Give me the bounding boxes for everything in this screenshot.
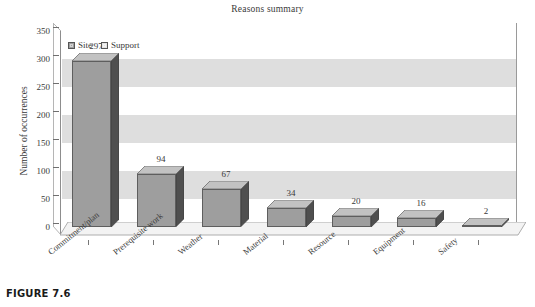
x-axis-tick-mark bbox=[478, 240, 479, 245]
legend-entry[interactable]: Site bbox=[68, 40, 92, 50]
y-axis-tick-label: 150 bbox=[10, 138, 50, 148]
x-axis-tick-mark bbox=[218, 240, 219, 245]
x-axis-tick-mark bbox=[348, 240, 349, 245]
y-axis-tick-label: 300 bbox=[10, 54, 50, 64]
bar-value-label: 20 bbox=[326, 196, 386, 206]
y-axis-tick-mark bbox=[53, 55, 59, 56]
background-band bbox=[62, 59, 517, 87]
legend-label: Site bbox=[78, 40, 92, 50]
figure-container: Reasons summary 050100150200250300350 Nu… bbox=[0, 0, 535, 307]
y-axis-tick-label: 50 bbox=[10, 194, 50, 204]
background-band bbox=[62, 115, 517, 143]
bar-side-face bbox=[176, 166, 184, 227]
y-axis-tick-mark bbox=[53, 167, 59, 168]
chart-canvas: 050100150200250300350 Number of occurren… bbox=[0, 18, 535, 278]
y-axis-tick-mark bbox=[53, 195, 59, 196]
bar-column[interactable] bbox=[72, 61, 111, 227]
plot-right-border bbox=[516, 23, 517, 227]
bar-front-face bbox=[202, 189, 241, 227]
bar-front-face bbox=[397, 218, 436, 227]
y-axis-tick-mark bbox=[53, 223, 59, 224]
bar-column[interactable] bbox=[202, 189, 241, 227]
bar-value-label: 34 bbox=[261, 188, 321, 198]
y-axis-tick-mark bbox=[53, 111, 59, 112]
x-axis-tick-mark bbox=[88, 240, 89, 245]
bar-front-face bbox=[72, 61, 111, 227]
y-axis-title: Number of occurrences bbox=[19, 41, 29, 221]
x-axis-category-label: Safety bbox=[436, 235, 459, 257]
bar-column[interactable] bbox=[332, 216, 371, 227]
x-axis-tick-mark bbox=[153, 240, 154, 245]
y-axis-tick-label: 350 bbox=[10, 26, 50, 36]
chart-title: Reasons summary bbox=[0, 4, 535, 14]
bar-front-face bbox=[332, 216, 371, 227]
axis-left-back-edge bbox=[53, 23, 54, 227]
bar-value-label: 2 bbox=[456, 206, 516, 216]
bar-front-face bbox=[267, 208, 306, 227]
y-axis-tick-mark bbox=[53, 27, 59, 28]
y-axis-tick-mark bbox=[53, 83, 59, 84]
bar-value-label: 94 bbox=[131, 154, 191, 164]
x-axis-tick-mark bbox=[413, 240, 414, 245]
y-axis-tick-label: 250 bbox=[10, 82, 50, 92]
legend-entry[interactable]: Support bbox=[101, 40, 140, 50]
bar-value-label: 16 bbox=[391, 198, 451, 208]
y-axis-tick-label: 0 bbox=[10, 222, 50, 232]
y-axis-tick-label: 100 bbox=[10, 166, 50, 176]
y-axis-tick-mark bbox=[53, 139, 59, 140]
legend-label: Support bbox=[111, 40, 140, 50]
y-axis-tick-label: 200 bbox=[10, 110, 50, 120]
chart-legend: SiteSupport bbox=[68, 40, 140, 50]
bar-side-face bbox=[111, 53, 119, 227]
legend-swatch-icon bbox=[101, 42, 108, 49]
bar-column[interactable] bbox=[397, 218, 436, 227]
bar-column[interactable] bbox=[267, 208, 306, 227]
legend-swatch-icon bbox=[68, 42, 75, 49]
bar-front-face bbox=[462, 225, 501, 227]
x-axis-tick-mark bbox=[283, 240, 284, 245]
axis-left-front-edge bbox=[60, 31, 61, 235]
bar-column[interactable] bbox=[462, 226, 501, 228]
bar-value-label: 67 bbox=[196, 169, 256, 179]
figure-caption: FIGURE 7.6 bbox=[6, 288, 71, 299]
